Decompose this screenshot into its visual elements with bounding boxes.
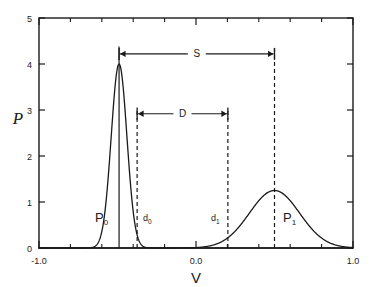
y-tick-label: 2 [27,152,32,162]
annotation-label-D: D [179,108,186,119]
x-axis-tick-labels: -1.00.01.0 [31,256,359,266]
y-tick-label: 0 [27,244,32,254]
annotation-label-S: S [193,48,200,59]
y-tick-label: 3 [27,106,32,116]
y-tick-label: 5 [27,14,32,24]
x-tick-label: -1.0 [31,256,47,266]
x-axis-title: V [191,269,201,286]
y-axis-title: P [12,109,23,128]
y-axis-tick-labels: 012345 [27,14,32,254]
x-tick-label: 0.0 [190,256,203,266]
y-tick-label: 4 [27,60,32,70]
x-tick-label: 1.0 [347,256,360,266]
chart-figure: -1.00.01.0 012345 SD P0P1d0d1 P V [0,0,369,287]
y-tick-label: 1 [27,198,32,208]
probability-distribution-chart: -1.00.01.0 012345 SD P0P1d0d1 P V [0,0,369,287]
